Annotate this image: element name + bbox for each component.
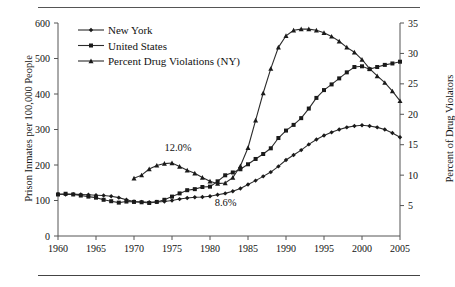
point-marker-diamond bbox=[101, 193, 105, 197]
point-marker-square bbox=[292, 123, 296, 127]
point-marker-square bbox=[345, 70, 349, 74]
series-2 bbox=[132, 27, 403, 186]
y-tick-label-right: 35 bbox=[408, 18, 418, 29]
point-marker-square bbox=[314, 96, 318, 100]
point-marker-square bbox=[200, 185, 204, 189]
point-marker-square bbox=[102, 198, 106, 202]
point-marker-square bbox=[79, 194, 83, 198]
point-marker-square bbox=[398, 60, 402, 64]
legend-item-1: United States bbox=[78, 40, 167, 52]
point-marker-square bbox=[246, 162, 250, 166]
point-marker-square bbox=[261, 152, 265, 156]
series-1 bbox=[56, 60, 402, 205]
point-marker-diamond bbox=[322, 133, 326, 137]
y-tick-label-left: 200 bbox=[35, 160, 50, 171]
point-marker-triangle bbox=[208, 179, 213, 184]
point-marker-square bbox=[322, 88, 326, 92]
point-marker-diamond bbox=[223, 191, 227, 195]
point-marker-diamond bbox=[367, 124, 371, 128]
y-tick-label-left: 300 bbox=[35, 124, 50, 135]
point-marker-diamond bbox=[177, 197, 181, 201]
x-tick-label: 1985 bbox=[238, 243, 258, 254]
x-tick-label: 1990 bbox=[276, 243, 296, 254]
legend-group: New YorkUnited StatesPercent Drug Violat… bbox=[78, 24, 240, 68]
point-marker-square bbox=[109, 199, 113, 203]
point-marker-triangle bbox=[329, 34, 334, 39]
point-marker-triangle bbox=[337, 39, 342, 44]
point-marker-square bbox=[360, 64, 364, 68]
point-marker-diamond bbox=[360, 123, 364, 127]
point-marker-square bbox=[94, 196, 98, 200]
legend-label: Percent Drug Violations (NY) bbox=[108, 55, 240, 68]
annotation-label: 12.0% bbox=[164, 142, 191, 153]
point-marker-diamond bbox=[345, 125, 349, 129]
point-marker-triangle bbox=[253, 118, 258, 123]
point-marker-square bbox=[155, 200, 159, 204]
point-marker-diamond bbox=[261, 174, 265, 178]
point-marker-diamond bbox=[200, 195, 204, 199]
y-tick-label-right: 10 bbox=[408, 170, 418, 181]
point-marker-square bbox=[132, 200, 136, 204]
point-marker-square bbox=[352, 65, 356, 69]
point-marker-square bbox=[56, 192, 60, 196]
point-marker-diamond bbox=[193, 195, 197, 199]
y-tick-label-right: 15 bbox=[408, 139, 418, 150]
point-marker-diamond bbox=[170, 198, 174, 202]
point-marker-square bbox=[231, 170, 235, 174]
point-marker-square bbox=[147, 201, 151, 205]
axes-group: 0100200300400500600510152025303519601965… bbox=[35, 18, 418, 255]
y-tick-label-right: 30 bbox=[408, 48, 418, 59]
point-marker-square bbox=[185, 188, 189, 192]
point-marker-triangle bbox=[246, 145, 251, 150]
y-tick-label-right: 5 bbox=[408, 200, 413, 211]
point-marker-diamond bbox=[375, 125, 379, 129]
point-marker-square bbox=[254, 157, 258, 161]
point-marker-diamond bbox=[109, 194, 113, 198]
series-0 bbox=[56, 123, 402, 204]
legend-item-0: New York bbox=[78, 24, 153, 36]
point-marker-square bbox=[117, 201, 121, 205]
point-marker-square bbox=[71, 192, 75, 196]
point-marker-square bbox=[64, 192, 68, 196]
point-marker-square bbox=[276, 136, 280, 140]
point-marker-diamond bbox=[89, 28, 93, 32]
y-tick-label-left: 400 bbox=[35, 89, 50, 100]
point-marker-square bbox=[307, 107, 311, 111]
point-marker-triangle bbox=[147, 167, 152, 172]
annotation-label: 8.6% bbox=[215, 197, 237, 208]
y-tick-label-left: 600 bbox=[35, 18, 50, 29]
y-tick-label-left: 100 bbox=[35, 195, 50, 206]
point-marker-square bbox=[170, 195, 174, 199]
series-line bbox=[134, 29, 400, 184]
point-marker-square bbox=[86, 195, 90, 199]
y-tick-label-right: 20 bbox=[408, 109, 418, 120]
point-marker-triangle bbox=[177, 164, 182, 169]
point-marker-square bbox=[375, 65, 379, 69]
point-marker-square bbox=[223, 173, 227, 177]
point-marker-square bbox=[330, 82, 334, 86]
x-tick-label: 1980 bbox=[200, 243, 220, 254]
point-marker-diamond bbox=[383, 127, 387, 131]
point-marker-diamond bbox=[398, 135, 402, 139]
point-marker-square bbox=[269, 146, 273, 150]
point-marker-triangle bbox=[238, 164, 243, 169]
y-tick-label-right: 25 bbox=[408, 78, 418, 89]
point-marker-diamond bbox=[253, 178, 257, 182]
point-marker-square bbox=[140, 200, 144, 204]
point-marker-square bbox=[284, 129, 288, 133]
x-tick-label: 1970 bbox=[124, 243, 144, 254]
series-line bbox=[58, 62, 400, 203]
point-marker-diamond bbox=[238, 186, 242, 190]
point-marker-diamond bbox=[117, 195, 121, 199]
point-marker-square bbox=[208, 185, 212, 189]
point-marker-triangle bbox=[268, 66, 273, 71]
y-tick-label-left: 0 bbox=[45, 231, 50, 242]
point-marker-square bbox=[162, 198, 166, 202]
point-marker-diamond bbox=[352, 124, 356, 128]
x-tick-label: 1960 bbox=[48, 243, 68, 254]
point-marker-square bbox=[390, 61, 394, 65]
x-tick-label: 1995 bbox=[314, 243, 334, 254]
legend-label: New York bbox=[108, 24, 153, 36]
point-marker-diamond bbox=[246, 182, 250, 186]
